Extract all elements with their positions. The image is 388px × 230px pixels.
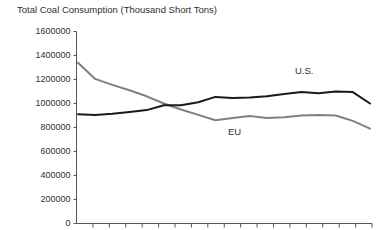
y-axis-tick-label: 800000 [13, 123, 71, 132]
series-label-eu: EU [228, 127, 241, 137]
y-axis-tick-label: 400000 [13, 171, 71, 180]
series-label-us: U.S. [295, 66, 313, 76]
series-line-eu [78, 63, 370, 129]
chart-figure: Total Coal Consumption (Thousand Short T… [0, 0, 388, 230]
y-axis-tick-label: 1200000 [13, 75, 71, 84]
y-axis-tick-label: 1400000 [13, 51, 71, 60]
series-line-us [78, 92, 370, 115]
y-axis-tick-label: 1600000 [13, 27, 71, 36]
y-axis-tick-label: 1000000 [13, 99, 71, 108]
y-axis-tick-label: 600000 [13, 147, 71, 156]
y-axis-tick-label: 200000 [13, 195, 71, 204]
y-axis-tick-label: 0 [13, 219, 71, 228]
